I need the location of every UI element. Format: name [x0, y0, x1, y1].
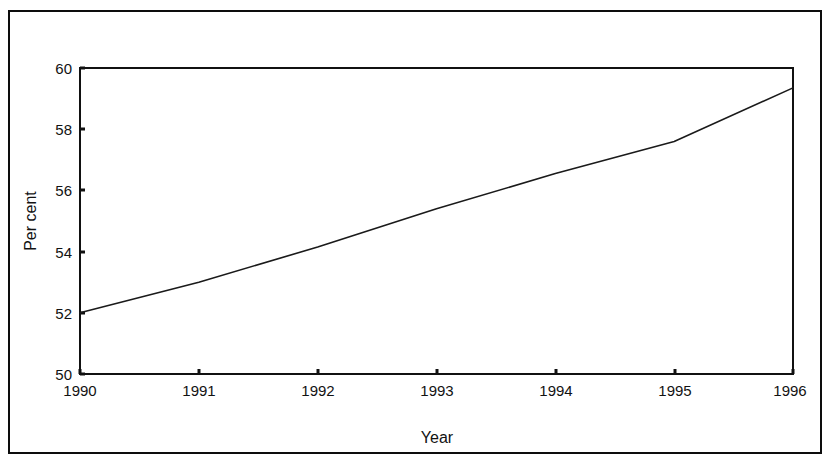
figure-container: 60 58 56 54 52 50 1990 1991 1992 1993 19… — [0, 0, 834, 470]
y-tick-label: 58 — [55, 121, 72, 138]
y-tick-label: 54 — [55, 244, 72, 261]
x-tick-label: 1995 — [658, 382, 691, 399]
x-axis-tick-labels: 1990 1991 1992 1993 1994 1995 1996 — [63, 382, 806, 399]
y-axis-title: Per cent — [22, 191, 39, 251]
y-tick-label: 50 — [55, 366, 72, 383]
y-axis-tick-labels: 60 58 56 54 52 50 — [55, 60, 72, 383]
axis-spines — [80, 68, 793, 374]
y-tick-label: 56 — [55, 182, 72, 199]
plot-area-border — [80, 68, 793, 374]
x-tick-label: 1996 — [773, 382, 806, 399]
y-tick-label: 60 — [55, 60, 72, 77]
data-series-line — [80, 88, 793, 313]
x-tick-label: 1990 — [63, 382, 96, 399]
y-tick-label: 52 — [55, 305, 72, 322]
x-tick-label: 1993 — [420, 382, 453, 399]
x-axis-title: Year — [421, 429, 454, 446]
x-tick-label: 1991 — [182, 382, 215, 399]
x-tick-label: 1992 — [301, 382, 334, 399]
line-chart: 60 58 56 54 52 50 1990 1991 1992 1993 19… — [0, 0, 834, 470]
x-tick-label: 1994 — [539, 382, 572, 399]
